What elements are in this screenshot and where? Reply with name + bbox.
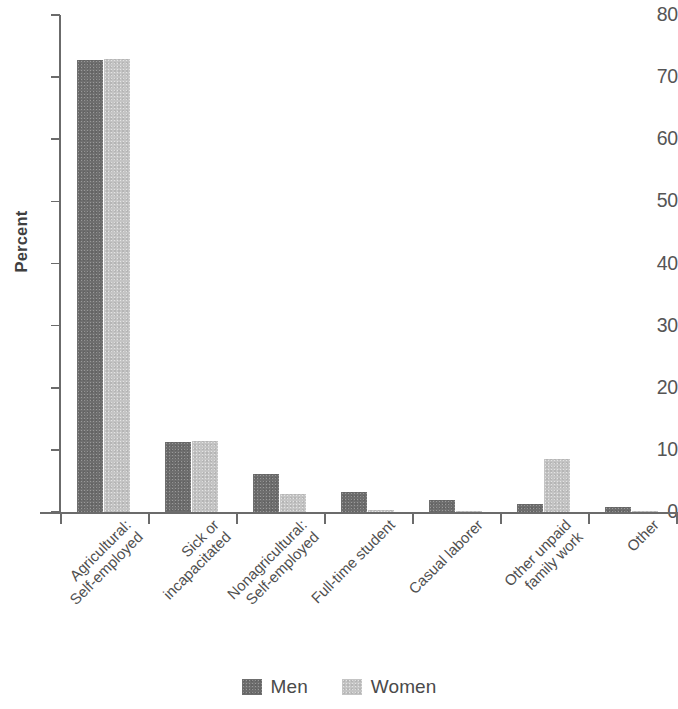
legend-item-women: Women [342,676,437,698]
chart-legend: MenWomen [0,676,678,698]
bar-women-3 [280,494,306,512]
legend-label: Men [271,676,308,698]
bar-men-6 [517,504,543,512]
x-axis-tick [324,513,326,524]
bar-men-4 [341,492,367,512]
bar-chart: Percent 01020304050607080 Agricultural:S… [0,0,678,709]
y-axis-tick [51,76,60,78]
bar-men-5 [429,500,455,512]
bar-women-4 [368,510,394,512]
x-axis-tick [148,513,150,524]
bar-women-6 [544,459,570,512]
y-axis-title: Percent [12,187,31,297]
bar-men-7 [605,507,631,512]
bar-women-7 [632,511,658,512]
y-axis-tick [51,201,60,203]
x-axis-tick [676,513,678,524]
y-axis-tick [51,263,60,265]
legend-swatch-icon [342,679,362,695]
y-axis-tick [51,14,60,16]
bar-men-3 [253,474,279,512]
legend-label: Women [371,676,437,698]
x-axis-tick [236,513,238,524]
x-axis-tick [60,513,62,524]
x-axis-tick [500,513,502,524]
bar-men-2 [165,442,191,512]
x-axis-tick [588,513,590,524]
legend-swatch-icon [242,679,262,695]
y-axis-tick [51,387,60,389]
bar-women-2 [192,441,218,512]
plot-area [60,15,676,512]
bar-women-5 [456,511,482,512]
y-axis-tick [51,449,60,451]
bar-women-1 [104,59,130,513]
x-axis-line [40,512,678,514]
bar-men-1 [77,60,103,512]
x-axis-tick [412,513,414,524]
legend-item-men: Men [242,676,308,698]
y-axis-tick [51,138,60,140]
y-axis-tick [51,325,60,327]
